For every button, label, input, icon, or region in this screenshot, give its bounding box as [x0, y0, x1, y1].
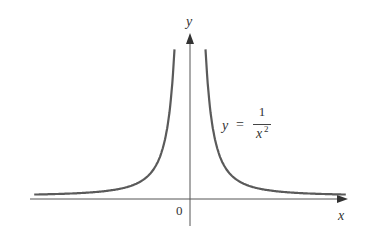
y-axis-label: y: [186, 14, 192, 30]
annotation-exponent: 2: [264, 124, 269, 134]
annotation-equals: =: [236, 117, 244, 133]
annotation-lhs: y: [222, 118, 228, 134]
annotation-denominator: x: [256, 126, 262, 142]
x-axis-arrow-icon: [337, 195, 348, 203]
y-axis-arrow-icon: [186, 33, 194, 44]
origin-label: 0: [176, 203, 183, 219]
curve-left-branch: [34, 49, 174, 194]
plot-canvas: [0, 0, 366, 236]
x-axis-label: x: [338, 208, 344, 224]
annotation-numerator: 1: [254, 104, 270, 120]
